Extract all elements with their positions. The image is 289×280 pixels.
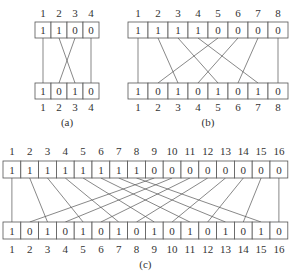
- bottom-index-label: 12: [202, 243, 213, 255]
- top-index-label: 1: [9, 145, 15, 157]
- top-index-label: 11: [185, 145, 196, 157]
- bit-value: 0: [241, 225, 247, 237]
- bit-value: 0: [98, 225, 104, 237]
- bottom-index-label: 9: [152, 243, 158, 255]
- bit-value: 0: [258, 164, 264, 176]
- bottom-index-label: 7: [255, 101, 261, 113]
- wire: [48, 178, 84, 222]
- bit-value: 1: [80, 225, 86, 237]
- top-index-label: 2: [27, 145, 33, 157]
- bit-value: 0: [56, 85, 62, 97]
- bottom-index-label: 1: [9, 243, 15, 255]
- shuffle-wires: [43, 38, 91, 83]
- bit-value: 0: [72, 24, 78, 36]
- bottom-index-label: 6: [98, 243, 104, 255]
- top-index-label: 5: [215, 7, 221, 19]
- bit-value: 1: [116, 225, 122, 237]
- bottom-index-label: 2: [155, 101, 161, 113]
- shuffle-wires: [12, 178, 279, 222]
- top-index-label: 9: [152, 145, 158, 157]
- bottom-index-label: 11: [185, 243, 196, 255]
- bit-value: 0: [223, 164, 229, 176]
- bit-value: 1: [27, 164, 33, 176]
- bottom-index-label: 3: [45, 243, 51, 255]
- top-index-label: 3: [72, 7, 78, 19]
- bottom-index-label: 5: [80, 243, 86, 255]
- bottom-index-label: 8: [275, 101, 281, 113]
- bit-value: 1: [155, 24, 161, 36]
- wire: [238, 38, 258, 83]
- bottom-index-label: 3: [72, 101, 78, 113]
- top-index-label: 3: [45, 145, 51, 157]
- bit-value: 1: [187, 225, 193, 237]
- top-index-label: 8: [275, 7, 281, 19]
- bottom-index-label: 4: [195, 101, 201, 113]
- bit-value: 0: [195, 85, 201, 97]
- bit-value: 1: [98, 164, 104, 176]
- bottom-index-label: 15: [256, 243, 268, 255]
- top-index-label: 4: [63, 145, 69, 157]
- bottom-index-label: 2: [27, 243, 33, 255]
- bottom-index-label: 2: [56, 101, 62, 113]
- top-index-label: 6: [235, 7, 241, 19]
- top-register: 111213141516171809010011012013014015016: [3, 145, 288, 178]
- top-index-label: 8: [134, 145, 140, 157]
- bit-value: 0: [205, 164, 211, 176]
- bottom-index-label: 5: [215, 101, 221, 113]
- top-index-label: 3: [175, 7, 181, 19]
- bit-value: 1: [45, 164, 51, 176]
- top-index-label: 7: [116, 145, 122, 157]
- bit-value: 1: [63, 164, 69, 176]
- wire: [158, 38, 218, 83]
- bit-value: 1: [215, 85, 221, 97]
- bit-value: 1: [258, 225, 264, 237]
- bit-value: 0: [88, 85, 94, 97]
- bit-value: 0: [134, 225, 140, 237]
- bit-value: 1: [255, 85, 261, 97]
- bottom-index-label: 16: [273, 243, 285, 255]
- bit-value: 0: [169, 164, 175, 176]
- diagram-caption: (b): [202, 116, 215, 129]
- bit-value: 0: [187, 164, 193, 176]
- bit-value: 0: [275, 24, 281, 36]
- top-index-label: 16: [273, 145, 285, 157]
- bottom-index-label: 4: [88, 101, 94, 113]
- wire: [65, 178, 172, 222]
- bit-value: 0: [275, 85, 281, 97]
- top-index-label: 2: [155, 7, 161, 19]
- wire: [208, 178, 244, 222]
- bottom-register: 11021304: [35, 83, 99, 113]
- bit-value: 1: [80, 164, 86, 176]
- bottom-index-label: 4: [63, 243, 69, 255]
- shuffle-network-diagram: 1112030411021304(a)111213140506070811021…: [0, 0, 289, 280]
- top-index-label: 4: [195, 7, 201, 19]
- bit-value: 1: [40, 24, 46, 36]
- top-index-label: 2: [56, 7, 62, 19]
- wire: [30, 178, 48, 222]
- bit-value: 0: [88, 24, 94, 36]
- diagram-caption: (a): [61, 116, 74, 129]
- bottom-register: 110213041506170819010111012113014115016: [3, 222, 288, 255]
- top-index-label: 15: [256, 145, 268, 157]
- bit-value: 0: [241, 164, 247, 176]
- bit-value: 1: [175, 85, 181, 97]
- bit-value: 0: [169, 225, 175, 237]
- bit-value: 1: [135, 85, 141, 97]
- wire: [198, 38, 238, 83]
- bit-value: 0: [205, 225, 211, 237]
- bottom-index-label: 1: [135, 101, 141, 113]
- wire: [198, 38, 258, 83]
- shuffle-wires: [138, 38, 278, 83]
- bottom-index-label: 7: [116, 243, 122, 255]
- top-index-label: 5: [80, 145, 86, 157]
- wire: [243, 178, 261, 222]
- bit-value: 0: [235, 24, 241, 36]
- top-index-label: 1: [135, 7, 141, 19]
- top-register: 1112131405060708: [128, 7, 288, 38]
- bottom-index-label: 10: [167, 243, 179, 255]
- bit-value: 0: [235, 85, 241, 97]
- top-index-label: 6: [98, 145, 104, 157]
- bit-value: 0: [255, 24, 261, 36]
- bit-value: 1: [152, 225, 158, 237]
- bottom-index-label: 14: [238, 243, 250, 255]
